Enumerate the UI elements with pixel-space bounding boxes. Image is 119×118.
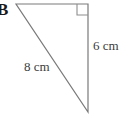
side-length-label-vertical: 6 cm: [93, 39, 119, 52]
figure-label: B: [0, 1, 8, 18]
geometry-figure: B 6 cm 8 cm: [0, 0, 119, 118]
right-angle-marker-icon: [77, 4, 88, 15]
side-length-label-hypotenuse: 8 cm: [24, 60, 50, 73]
triangle-diagram-svg: [0, 0, 119, 118]
right-triangle-outline: [16, 4, 88, 112]
